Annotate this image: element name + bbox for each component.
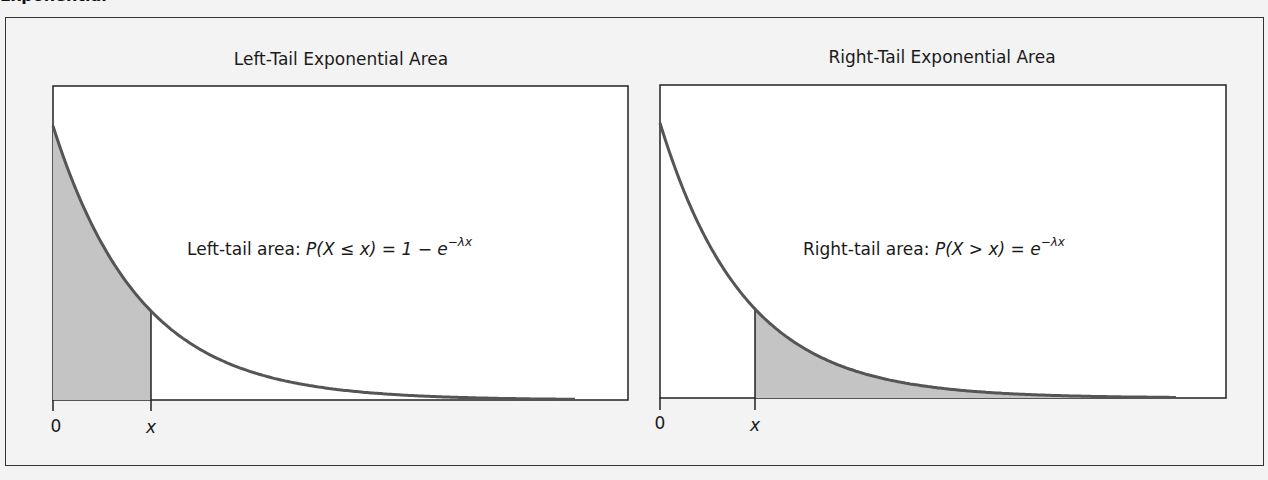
- right-origin-label: 0: [655, 413, 666, 433]
- right-x-label: x: [750, 415, 760, 435]
- left-panel-title: Left-Tail Exponential Area: [234, 49, 448, 69]
- right-tail-formula: Right-tail area: P(X > x) = e−λx: [803, 237, 1065, 259]
- left-origin-label: 0: [51, 416, 62, 436]
- left-x-label: x: [146, 417, 156, 437]
- right-panel-title: Right-Tail Exponential Area: [828, 47, 1055, 67]
- left-tail-formula: Left-tail area: P(X ≤ x) = 1 − e−λx: [187, 237, 472, 259]
